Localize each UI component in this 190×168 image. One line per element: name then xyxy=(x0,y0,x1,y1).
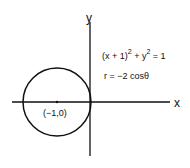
center-point xyxy=(56,101,58,103)
polar-circle-diagram: y x (−1,0) (x + 1)2 + y2 = 1 r = −2 cosθ xyxy=(0,0,190,168)
polar-equation: r = −2 cosθ xyxy=(104,71,149,81)
x-axis-label: x xyxy=(174,96,180,110)
center-label: (−1,0) xyxy=(43,108,67,118)
cartesian-equation: (x + 1)2 + y2 = 1 xyxy=(102,48,166,61)
y-axis-label: y xyxy=(86,11,92,25)
